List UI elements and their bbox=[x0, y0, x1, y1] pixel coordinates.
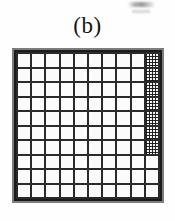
grid-cell-empty bbox=[61, 98, 73, 111]
grid-cell-empty bbox=[117, 141, 129, 154]
grid-lattice bbox=[14, 50, 162, 201]
grid-cell-empty bbox=[32, 170, 44, 183]
grid-cell-empty bbox=[18, 54, 30, 67]
grid-cell-empty bbox=[132, 54, 144, 67]
grid-cell-empty bbox=[18, 170, 30, 183]
grid-cell-empty bbox=[132, 127, 144, 140]
grid-cell-empty bbox=[32, 156, 44, 169]
grid-cell-filled bbox=[146, 54, 158, 67]
grid-cell-empty bbox=[18, 98, 30, 111]
grid-cell-empty bbox=[75, 112, 87, 125]
grid-cell-empty bbox=[61, 127, 73, 140]
grid-cell-empty bbox=[146, 185, 158, 198]
grid-cell-empty bbox=[89, 185, 101, 198]
grid-cell-filled bbox=[146, 83, 158, 96]
grid-cell-empty bbox=[132, 156, 144, 169]
grid-cell-empty bbox=[117, 170, 129, 183]
grid-cell-empty bbox=[61, 69, 73, 82]
grid-cell-empty bbox=[18, 156, 30, 169]
grid-cell-empty bbox=[75, 185, 87, 198]
grid-cell-empty bbox=[132, 83, 144, 96]
grid-cell-empty bbox=[32, 54, 44, 67]
grid-cell-empty bbox=[46, 127, 58, 140]
grid-cell-empty bbox=[46, 185, 58, 198]
grid-cell-empty bbox=[18, 141, 30, 154]
grid-cell-empty bbox=[89, 83, 101, 96]
grid-cell-empty bbox=[103, 112, 115, 125]
grid-cell-empty bbox=[61, 185, 73, 198]
grid-cell-empty bbox=[75, 127, 87, 140]
grid-cell-empty bbox=[89, 54, 101, 67]
grid-cell-empty bbox=[61, 170, 73, 183]
grid-cell-empty bbox=[117, 112, 129, 125]
grid-cell-empty bbox=[89, 112, 101, 125]
grid-cell-empty bbox=[103, 54, 115, 67]
grid-cell-empty bbox=[132, 170, 144, 183]
figure-panel-b: (b) bbox=[0, 0, 175, 221]
grid-cell-empty bbox=[32, 98, 44, 111]
grid-cell-empty bbox=[32, 127, 44, 140]
grid-cell-empty bbox=[46, 112, 58, 125]
grid-cell-empty bbox=[32, 83, 44, 96]
grid-cell-empty bbox=[18, 69, 30, 82]
grid-cell-empty bbox=[146, 170, 158, 183]
grid-cell-empty bbox=[32, 185, 44, 198]
grid-container bbox=[12, 48, 164, 203]
grid-cell-filled bbox=[146, 98, 158, 111]
grid-cell-empty bbox=[117, 185, 129, 198]
grid-cell-empty bbox=[146, 156, 158, 169]
grid-cell-empty bbox=[46, 170, 58, 183]
grid-cell-empty bbox=[103, 69, 115, 82]
grid-cell-empty bbox=[103, 83, 115, 96]
grid-cell-empty bbox=[75, 54, 87, 67]
grid-cell-empty bbox=[103, 156, 115, 169]
grid-cell-empty bbox=[46, 156, 58, 169]
grid-cell-empty bbox=[117, 156, 129, 169]
grid-cell-empty bbox=[61, 141, 73, 154]
grid-cell-empty bbox=[18, 83, 30, 96]
grid-cell-empty bbox=[132, 141, 144, 154]
grid-cell-empty bbox=[117, 127, 129, 140]
grid-cell-empty bbox=[75, 98, 87, 111]
grid-cell-empty bbox=[132, 69, 144, 82]
grid-cell-empty bbox=[103, 127, 115, 140]
figure-caption: (b) bbox=[0, 12, 175, 40]
grid-cell-empty bbox=[89, 141, 101, 154]
grid-cell-filled bbox=[146, 127, 158, 140]
grid-cell-empty bbox=[132, 98, 144, 111]
grid-cell-empty bbox=[75, 156, 87, 169]
grid-cell-empty bbox=[32, 141, 44, 154]
grid-cell-empty bbox=[103, 98, 115, 111]
grid-cell-empty bbox=[132, 185, 144, 198]
grid-cell-empty bbox=[117, 54, 129, 67]
grid-cell-empty bbox=[46, 141, 58, 154]
grid-cell-empty bbox=[103, 141, 115, 154]
grid-cell-empty bbox=[75, 83, 87, 96]
grid-cell-empty bbox=[18, 112, 30, 125]
grid-cell-empty bbox=[132, 112, 144, 125]
grid-cell-empty bbox=[75, 141, 87, 154]
grid-cell-empty bbox=[32, 112, 44, 125]
grid-cell-empty bbox=[89, 156, 101, 169]
grid-cell-empty bbox=[18, 185, 30, 198]
grid-cell-empty bbox=[61, 54, 73, 67]
grid-cell-empty bbox=[32, 69, 44, 82]
grid-cell-empty bbox=[89, 170, 101, 183]
grid-cell-empty bbox=[46, 98, 58, 111]
grid-cell-empty bbox=[117, 98, 129, 111]
grid-cell-empty bbox=[46, 69, 58, 82]
grid-cell-empty bbox=[61, 156, 73, 169]
grid-cell-filled bbox=[146, 112, 158, 125]
grid-cell-empty bbox=[18, 127, 30, 140]
grid-cell-empty bbox=[75, 170, 87, 183]
grid-cell-empty bbox=[89, 69, 101, 82]
grid-cell-empty bbox=[103, 185, 115, 198]
grid-cell-empty bbox=[117, 69, 129, 82]
grid-cell-empty bbox=[103, 170, 115, 183]
scan-artifact-icon bbox=[128, 2, 154, 7]
grid-cell-empty bbox=[61, 83, 73, 96]
grid-cell-empty bbox=[46, 83, 58, 96]
grid-cell-empty bbox=[75, 69, 87, 82]
grid-cell-empty bbox=[61, 112, 73, 125]
grid-cell-empty bbox=[46, 54, 58, 67]
